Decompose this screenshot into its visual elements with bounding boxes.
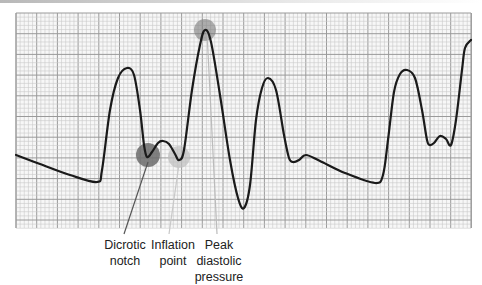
label-line: Peak (188, 237, 250, 253)
label-line: pressure (188, 269, 250, 285)
ecg-grid (16, 13, 471, 228)
label-peak-diastolic-pressure: Peak diastolic pressure (188, 237, 250, 285)
label-line: diastolic (188, 253, 250, 269)
